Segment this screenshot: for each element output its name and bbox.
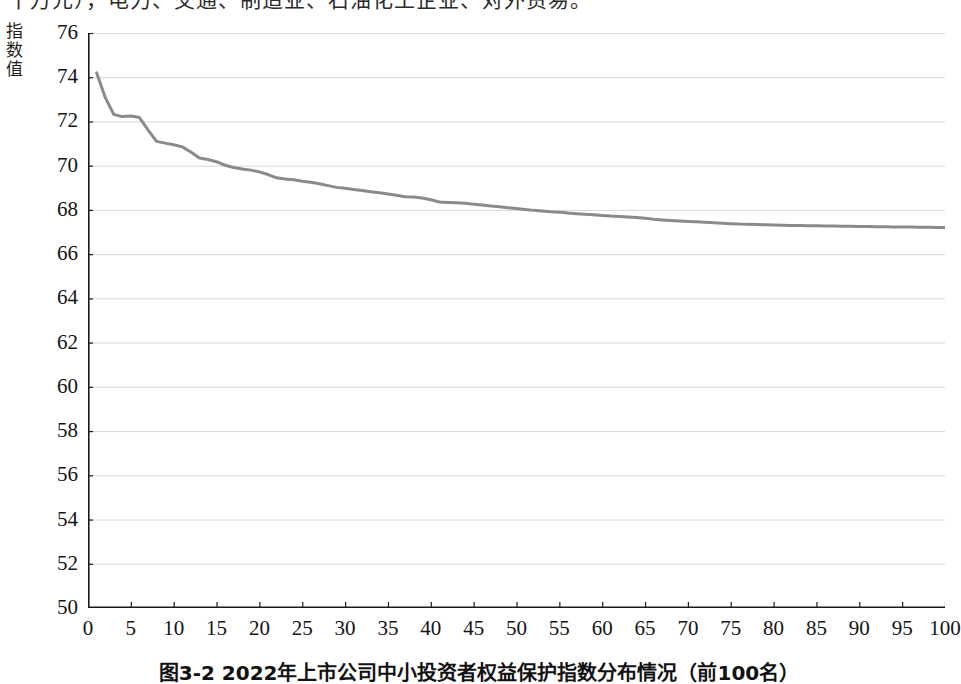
figure-caption: 图3-2 2022年上市公司中小投资者权益保护指数分布情况（前100名） [0,660,958,684]
x-axis-tick-label: 0 [83,618,94,639]
y-axis-title-char-2: 数 [2,41,26,60]
y-axis-tick-label: 58 [30,420,78,441]
x-axis-tick-label: 70 [677,618,698,639]
page-body-text: 十万元），电力、交通、制造业、石油化工企业、对外贸易。 [8,0,592,13]
x-axis-tick-label: 95 [892,618,913,639]
page-body-text-cut: 十万元），电力、交通、制造业、石油化工企业、对外贸易。 [0,0,958,17]
x-axis-tick-label: 75 [720,618,741,639]
y-axis-title-char-1: 指 [2,22,26,41]
x-axis-tick-label: 35 [377,618,398,639]
y-axis-tick-label: 60 [30,376,78,397]
figure-caption-clip: 图3-2 2022年上市公司中小投资者权益保护指数分布情况（前100名） [0,660,958,684]
x-axis-tick-label: 90 [849,618,870,639]
x-axis-tick-label: 45 [463,618,484,639]
x-axis-tick-label: 25 [292,618,313,639]
data-series-line [97,73,945,228]
y-axis-tick-label: 52 [30,553,78,574]
x-axis-tick-label: 5 [126,618,137,639]
y-axis-tick-label: 66 [30,243,78,264]
x-axis-tick-label: 85 [806,618,827,639]
y-axis-tick-label: 74 [30,66,78,87]
y-axis-tick-label: 64 [30,287,78,308]
y-axis-tick-label: 76 [30,22,78,43]
x-axis-tick-label: 40 [420,618,441,639]
y-axis-tick-label: 72 [30,110,78,131]
y-axis-title: 指 数 值 [2,22,26,79]
x-axis-tick-label: 65 [635,618,656,639]
x-axis-tick-labels: 0510152025303540455055606570758085909510… [0,618,958,648]
y-axis-tick-label: 62 [30,332,78,353]
x-axis-tick-label: 15 [206,618,227,639]
plot-area [88,33,945,608]
y-axis-tick-label: 50 [30,597,78,618]
x-axis-tick-label: 50 [506,618,527,639]
x-axis-tick-label: 100 [929,618,961,639]
y-axis-tick-label: 68 [30,199,78,220]
x-axis-tick-label: 10 [163,618,184,639]
y-axis-tick-label: 56 [30,464,78,485]
y-axis-title-char-3: 值 [2,60,26,79]
y-axis-tick-label: 54 [30,509,78,530]
x-axis-tick-label: 80 [763,618,784,639]
chart-svg [88,33,945,608]
x-axis-tick-label: 20 [249,618,270,639]
y-axis-tick-label: 70 [30,155,78,176]
x-axis-tick-label: 30 [335,618,356,639]
x-axis-tick-label: 60 [592,618,613,639]
y-axis-tick-labels: 5052545658606264666870727476 [26,0,78,684]
x-axis-tick-label: 55 [549,618,570,639]
